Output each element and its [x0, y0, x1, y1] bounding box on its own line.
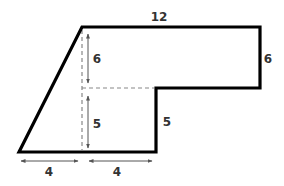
bottom-right-width-label: 4	[113, 165, 121, 179]
lower-inner-height-label: 5	[93, 117, 101, 131]
step-height-label: 5	[163, 115, 171, 129]
upper-inner-height-label: 6	[93, 52, 101, 66]
shape-outline	[19, 27, 260, 152]
composite-shape-diagram: 12 6 6 5 5 4 4	[0, 0, 284, 186]
bottom-left-width-label: 4	[45, 165, 53, 179]
top-width-label: 12	[151, 10, 168, 24]
right-height-label: 6	[264, 52, 272, 66]
